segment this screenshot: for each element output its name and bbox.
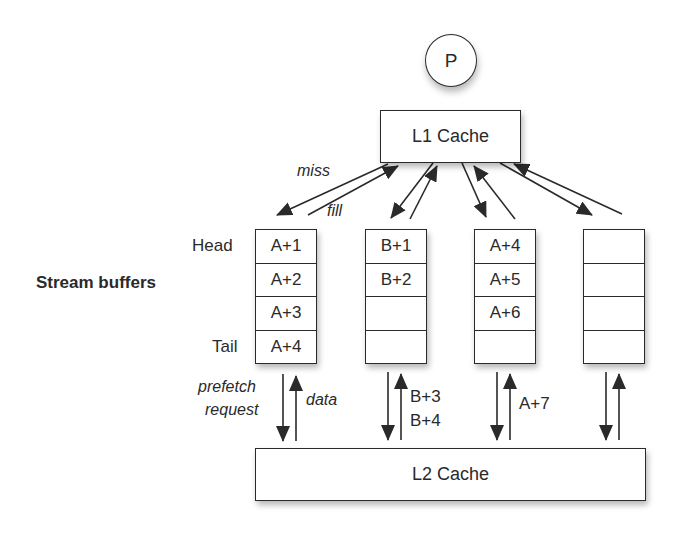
buffer-entry	[366, 331, 426, 364]
stream-buffers-label: Stream buffers	[36, 273, 156, 293]
buffer-entry: A+5	[475, 264, 535, 298]
buffer-entry: A+4	[475, 230, 535, 264]
l2-cache-label: L2 Cache	[412, 464, 489, 485]
buffer-entry: A+2	[256, 264, 316, 298]
fill-label: fill	[327, 202, 342, 220]
tail-label: Tail	[212, 337, 238, 357]
miss-label: miss	[297, 162, 330, 180]
buffer-entry	[584, 297, 644, 331]
buffer-entry	[584, 264, 644, 298]
buffer4-down-arrow	[500, 163, 592, 215]
buffer2-up-arrow	[410, 166, 437, 219]
a-prefetch-label: A+7	[519, 394, 550, 414]
buffer-entry: A+4	[256, 331, 316, 364]
prefetch-label-line2: request	[205, 401, 258, 419]
buffer-entry	[584, 331, 644, 364]
b-prefetch-label-2: B+4	[410, 411, 441, 431]
stream-buffer-4	[583, 229, 645, 364]
buffer3-down-arrow	[462, 163, 486, 217]
buffer-entry	[584, 230, 644, 264]
stream-buffer-2: B+1 B+2	[365, 229, 427, 364]
buffer4-up-arrow	[514, 164, 622, 214]
l1-cache-box: L1 Cache	[380, 110, 521, 163]
buffer-entry	[366, 297, 426, 331]
l1-cache-label: L1 Cache	[412, 126, 489, 147]
buffer-entry: B+1	[366, 230, 426, 264]
buffer-entry: A+6	[475, 297, 535, 331]
stream-buffer-1: A+1 A+2 A+3 A+4	[255, 229, 317, 364]
l2-cache-box: L2 Cache	[255, 448, 646, 501]
stream-buffer-3: A+4 A+5 A+6	[474, 229, 536, 364]
buffer-entry: A+1	[256, 230, 316, 264]
buffer-entry: B+2	[366, 264, 426, 298]
processor-node: P	[425, 34, 477, 87]
buffer-entry: A+3	[256, 297, 316, 331]
prefetch-label-line1: prefetch	[198, 378, 256, 396]
buffer3-up-arrow	[474, 166, 515, 219]
data-label: data	[306, 391, 337, 409]
processor-label: P	[445, 50, 458, 72]
head-label: Head	[192, 236, 233, 256]
buffer2-down-arrow	[391, 163, 433, 218]
b-prefetch-label-1: B+3	[410, 387, 441, 407]
buffer-entry	[475, 331, 535, 364]
